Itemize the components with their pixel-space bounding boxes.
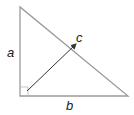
- right-angle-marker: [20, 87, 28, 96]
- arrow-vector-c: [27, 44, 76, 91]
- label-a: a: [7, 45, 14, 60]
- label-c: c: [76, 30, 83, 45]
- label-b: b: [66, 98, 73, 113]
- right-triangle-diagram: a b c: [0, 0, 134, 115]
